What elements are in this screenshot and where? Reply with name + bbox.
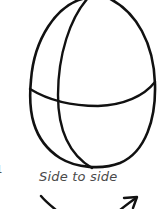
diagram-canvas: 1 Side to side xyxy=(0,0,163,209)
horizontal-guide xyxy=(30,82,155,106)
diagram-caption: Side to side xyxy=(39,168,139,186)
cropped-text-fragment: 1 xyxy=(0,164,2,176)
egg-outline xyxy=(30,0,155,167)
vertical-guide xyxy=(58,0,92,168)
rotation-arrow-left-stroke xyxy=(41,196,56,209)
